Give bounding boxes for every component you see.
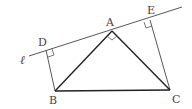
geometry-diagram: ℓ D A E B C	[0, 0, 192, 109]
label-E: E	[147, 4, 155, 17]
label-D: D	[38, 36, 47, 49]
right-angle-mark-A	[107, 36, 117, 40]
label-line-l: ℓ	[20, 53, 25, 67]
segment-AB	[55, 31, 112, 91]
label-C: C	[172, 93, 180, 106]
segment-BC	[55, 90, 170, 91]
right-angle-mark-D	[48, 49, 54, 57]
label-B: B	[49, 94, 57, 107]
line-l	[29, 7, 182, 56]
label-A: A	[105, 16, 115, 29]
